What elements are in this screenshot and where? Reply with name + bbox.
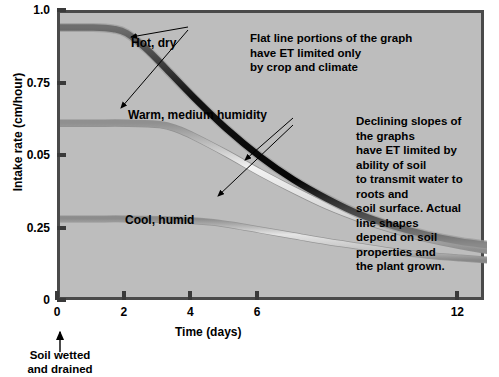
series-label-warm-medium-humidity: Warm, medium humidity: [128, 108, 267, 122]
x-tick-mark: [55, 291, 59, 300]
y-tick-label: 0.75: [0, 77, 50, 89]
x-axis-title: Time (days): [175, 325, 241, 339]
x-tick-label: 4: [170, 306, 210, 318]
y-tick-label: 0: [0, 294, 50, 306]
soil-wetted-caption: Soil wetted and drained: [10, 349, 110, 376]
y-tick-mark: [57, 81, 66, 85]
y-tick-label: 1.0: [0, 4, 50, 16]
y-tick-label: 0.05: [0, 149, 50, 161]
y-axis-title: Intake rate (cm/hour): [11, 52, 25, 212]
plot-area: Hot, dry Warm, medium humidity Cool, hum…: [57, 10, 484, 300]
y-tick-mark: [57, 226, 66, 230]
x-tick-label: 6: [237, 306, 277, 318]
series-label-hot-dry: Hot, dry: [131, 36, 176, 50]
annotation-flat-line-note: Flat line portions of the graph have ET …: [250, 31, 412, 75]
chart-figure: Hot, dry Warm, medium humidity Cool, hum…: [0, 0, 499, 377]
x-tick-label: 0: [37, 306, 77, 318]
y-tick-mark: [57, 8, 66, 12]
x-tick-mark: [455, 291, 459, 300]
x-tick-label: 2: [104, 306, 144, 318]
x-tick-mark: [188, 291, 192, 300]
y-tick-label: 0.25: [0, 222, 50, 234]
series-label-cool-humid: Cool, humid: [125, 213, 194, 227]
x-tick-mark: [255, 291, 259, 300]
y-tick-mark: [57, 153, 66, 157]
x-tick-mark: [122, 291, 126, 300]
x-tick-label: 12: [437, 306, 477, 318]
annotation-declining-slopes-note: Declining slopes of the graphs have ET l…: [356, 114, 481, 274]
